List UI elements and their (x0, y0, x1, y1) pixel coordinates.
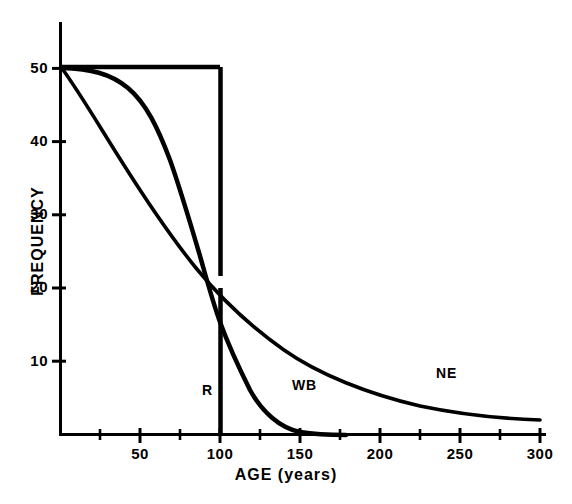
y-axis-title: FREQUENCY (29, 121, 47, 361)
axes-group (59, 22, 546, 436)
x-tick-label-50: 50 (110, 445, 170, 462)
chart-figure: 50 40 30 20 10 50 100 150 200 250 300 AG… (0, 0, 572, 504)
x-tick-label-300: 300 (510, 445, 570, 462)
curve-label-r: R (202, 382, 213, 398)
curve-ne (61, 67, 540, 420)
curve-label-ne: NE (436, 365, 457, 381)
y-tick-label-50: 50 (4, 59, 48, 76)
x-tick-label-100: 100 (190, 445, 250, 462)
x-tick-label-150: 150 (270, 445, 330, 462)
x-tick-label-250: 250 (430, 445, 490, 462)
curve-ne-path (61, 67, 540, 420)
x-axis-title: AGE (years) (0, 466, 572, 484)
x-tick-label-200: 200 (350, 445, 410, 462)
plot-canvas (0, 0, 572, 504)
curve-label-wb: WB (292, 377, 317, 393)
